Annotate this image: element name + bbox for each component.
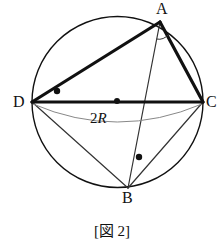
figure-caption: [図 2] [0,222,224,240]
vertex-label-d: D [13,94,25,110]
vertex-label-c: C [206,94,217,110]
vertex-label-a: A [156,1,168,17]
diameter-measure-arc [33,104,202,122]
diameter-label-radius-symbol: R [98,110,107,126]
center-dot [114,98,120,104]
figure-container: A B C D 2R [図 2] [0,0,224,251]
segment-ab [128,22,160,188]
geometry-canvas [0,0,224,251]
diameter-label-coefficient: 2 [90,110,98,126]
segment-db [32,102,128,188]
segment-da [32,22,160,102]
segment-ac [160,22,203,102]
angle-dot-adc [54,88,60,94]
vertex-label-b: B [122,190,133,206]
diameter-label: 2R [90,111,107,126]
angle-dot-abc [136,154,142,160]
